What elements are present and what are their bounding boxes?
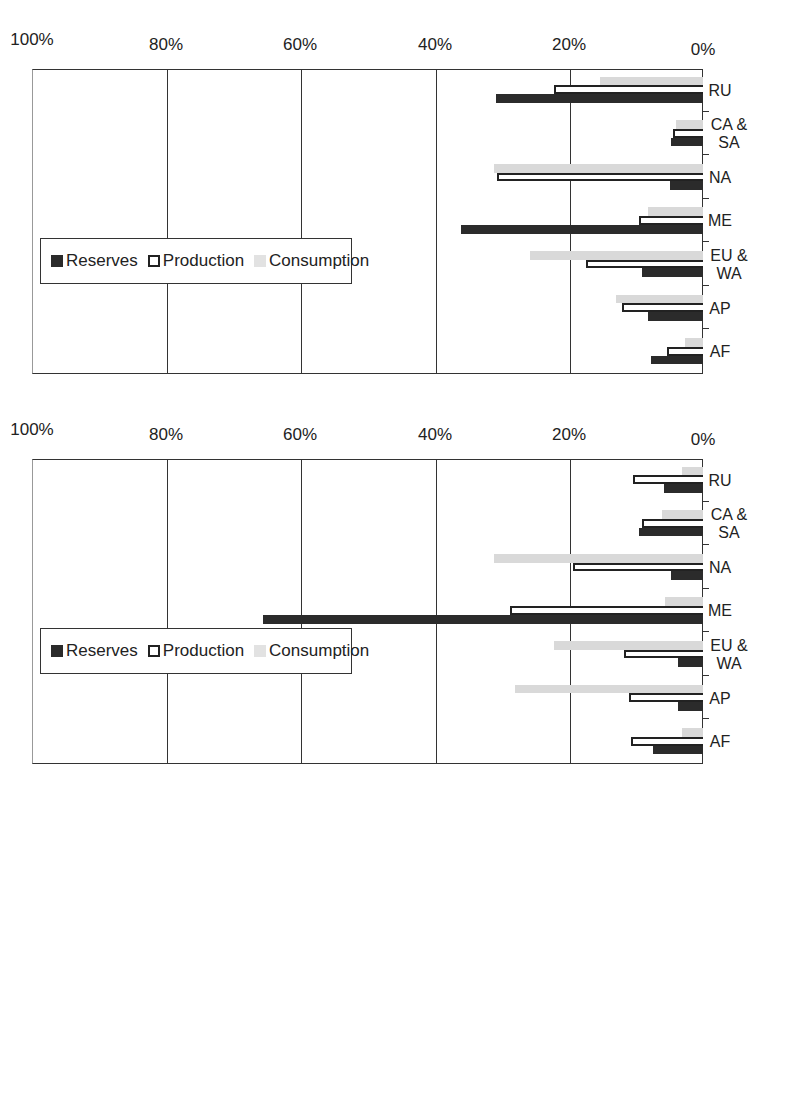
category-label: AP (690, 690, 750, 708)
category-label: AF (690, 733, 750, 751)
category-tick (703, 544, 709, 545)
production-bar (586, 260, 703, 269)
category-tick (703, 718, 709, 719)
y-tick-label: 20% (552, 35, 586, 55)
production-bar (624, 650, 703, 659)
gridline (167, 70, 168, 373)
category-label: AF (690, 343, 750, 361)
y-tick-label: 40% (418, 35, 452, 55)
reserves-bar (263, 615, 703, 624)
legend-reserves-label: Reserves (66, 251, 138, 271)
production-bar (554, 85, 703, 94)
category-label: CA & SA (699, 116, 759, 152)
legend-reserves: Reserves (51, 641, 138, 661)
legend-consumption-label: Consumption (269, 251, 369, 271)
category-tick (703, 631, 709, 632)
legend: ReservesProductionConsumption (40, 238, 352, 284)
legend-consumption-swatch-icon (254, 255, 266, 267)
category-tick (703, 198, 709, 199)
legend-production: Production (148, 251, 244, 271)
reserves-bar (461, 225, 703, 234)
consumption-bar (515, 685, 703, 694)
legend-production-swatch-icon (148, 645, 160, 657)
gridline (301, 70, 302, 373)
legend-production-label: Production (163, 251, 244, 271)
category-tick (703, 111, 709, 112)
category-label: RU (690, 472, 750, 490)
production-bar (642, 519, 703, 528)
natural-gas-panel: 0%20%40%60%80%100%AFAPEU & WAMENACA & SA… (0, 0, 799, 380)
petroleum-chart: 0%20%40%60%80%100%AFAPEU & WAMENACA & SA… (0, 390, 799, 770)
legend-consumption: Consumption (254, 641, 369, 661)
legend: ReservesProductionConsumption (40, 628, 352, 674)
y-tick-label: 40% (418, 425, 452, 445)
y-tick-label: 60% (283, 35, 317, 55)
natural-gas-chart: 0%20%40%60%80%100%AFAPEU & WAMENACA & SA… (0, 0, 799, 380)
y-tick-label: 100% (10, 420, 53, 440)
y-tick-label: 80% (149, 35, 183, 55)
category-tick (703, 241, 709, 242)
reserves-bar (496, 94, 703, 103)
category-label: ME (690, 213, 750, 231)
legend-consumption-label: Consumption (269, 641, 369, 661)
gridline (436, 460, 437, 763)
production-bar (573, 563, 703, 572)
petroleum-panel: 0%20%40%60%80%100%AFAPEU & WAMENACA & SA… (0, 390, 799, 770)
consumption-bar (554, 641, 703, 650)
category-tick (703, 328, 709, 329)
consumption-bar (662, 510, 703, 519)
category-tick (703, 675, 709, 676)
y-tick-label: 0% (691, 40, 716, 60)
category-tick (703, 285, 709, 286)
legend-production: Production (148, 641, 244, 661)
y-tick-label: 100% (10, 30, 53, 50)
consumption-bar (600, 77, 703, 86)
production-bar (510, 606, 703, 615)
plot-area (32, 69, 703, 374)
legend-reserves-swatch-icon (51, 645, 63, 657)
production-bar (497, 173, 703, 182)
category-tick (703, 588, 709, 589)
category-label: CA & SA (699, 506, 759, 542)
category-tick (703, 501, 709, 502)
consumption-bar (530, 251, 703, 260)
legend-reserves: Reserves (51, 251, 138, 271)
y-tick-label: 20% (552, 425, 586, 445)
gridline (301, 460, 302, 763)
gridline (167, 460, 168, 763)
reserves-bar (642, 268, 703, 277)
category-label: ME (690, 603, 750, 621)
gridline (570, 70, 571, 373)
category-label: EU & WA (699, 247, 759, 283)
legend-reserves-swatch-icon (51, 255, 63, 267)
legend-reserves-label: Reserves (66, 641, 138, 661)
category-label: NA (690, 559, 750, 577)
reserves-bar (639, 528, 703, 537)
y-tick-label: 80% (149, 425, 183, 445)
gridline (436, 70, 437, 373)
y-tick-label: 0% (691, 430, 716, 450)
consumption-bar (494, 164, 703, 173)
legend-consumption: Consumption (254, 251, 369, 271)
y-tick-label: 60% (283, 425, 317, 445)
legend-consumption-swatch-icon (254, 645, 266, 657)
legend-production-label: Production (163, 641, 244, 661)
legend-production-swatch-icon (148, 255, 160, 267)
category-label: RU (690, 82, 750, 100)
category-label: NA (690, 169, 750, 187)
category-tick (703, 154, 709, 155)
consumption-bar (494, 554, 703, 563)
plot-area (32, 459, 703, 764)
category-label: AP (690, 300, 750, 318)
category-label: EU & WA (699, 637, 759, 673)
